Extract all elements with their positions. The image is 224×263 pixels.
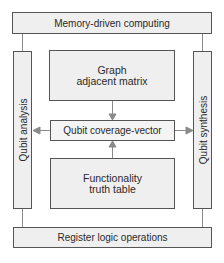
arrowhead-right-icon — [186, 127, 193, 134]
register-logic-operations-label: Register logic operations — [57, 232, 167, 243]
qubit-coverage-vector-label: Qubit coverage-vector — [63, 125, 161, 136]
qubit-synthesis-column: Qubit synthesis — [193, 51, 212, 209]
functionality-truth-table-box: Functionality truth table — [50, 158, 175, 209]
arrowhead-up-icon — [109, 141, 116, 147]
arrowhead-left-icon — [33, 127, 40, 134]
graph-adjacent-matrix-box: Graph adjacent matrix — [49, 50, 175, 101]
memory-driven-computing-label: Memory-driven computing — [54, 18, 170, 29]
qubit-analysis-label: Qubit analysis — [17, 99, 28, 162]
qubit-synthesis-label: Qubit synthesis — [197, 96, 208, 164]
register-logic-operations-box: Register logic operations — [13, 227, 212, 248]
functionality-label-line1: Functionality — [83, 173, 142, 184]
qubit-analysis-column: Qubit analysis — [13, 51, 32, 209]
memory-driven-computing-box: Memory-driven computing — [12, 12, 212, 34]
graph-label-line2: adjacent matrix — [76, 76, 147, 87]
graph-label-line1: Graph — [97, 65, 126, 76]
functionality-label-line2: truth table — [89, 184, 136, 195]
qubit-coverage-vector-box: Qubit coverage-vector — [50, 120, 175, 141]
